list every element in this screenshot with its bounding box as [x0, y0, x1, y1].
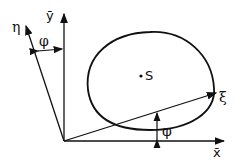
y-axis-label: ȳ [46, 8, 54, 23]
centroid-label: S [145, 68, 153, 83]
eta-label: η [12, 19, 20, 35]
phi-bottom-label: φ [162, 123, 172, 139]
coordinate-diagram: ȳ x̄ η ξ φ φ S [0, 0, 236, 161]
phi-top-dimension [38, 49, 62, 51]
centroid-dot [139, 74, 142, 77]
x-axis-label: x̄ [213, 145, 221, 160]
phi-top-label: φ [39, 33, 49, 49]
xi-axis [64, 93, 216, 141]
xi-label: ξ [219, 89, 227, 105]
